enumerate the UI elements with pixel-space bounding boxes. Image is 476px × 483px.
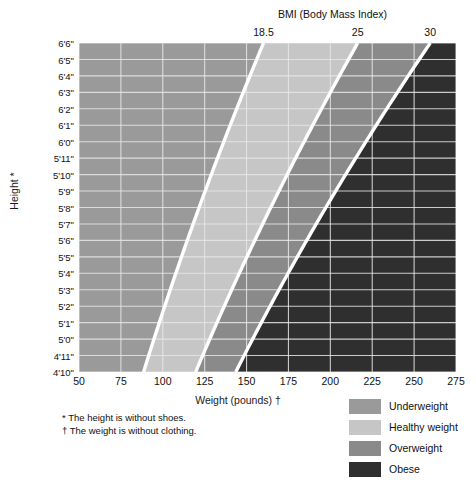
legend-swatch-icon: [349, 462, 381, 477]
legend-item-label: Healthy weight: [389, 421, 458, 433]
y-tick-label: 5'10": [4, 169, 74, 180]
legend-item-label: Obese: [389, 463, 420, 475]
y-tick-label: 6'5": [4, 54, 74, 65]
legend-swatch-icon: [349, 399, 381, 414]
y-tick-label: 5'0": [4, 334, 74, 345]
plot-area: [79, 43, 456, 372]
x-tick-label: 100: [154, 375, 172, 387]
bmi-axis-title: BMI (Body Mass Index): [278, 8, 387, 20]
y-tick-label: 6'3": [4, 87, 74, 98]
bmi-chart: BMI (Body Mass Index) 18.52530 Height * …: [0, 0, 476, 483]
x-tick-label: 125: [196, 375, 214, 387]
bmi-tick-25: 25: [352, 26, 364, 38]
legend-item: Underweight: [349, 396, 473, 416]
bmi-tick-30: 30: [424, 26, 436, 38]
x-tick-label: 225: [363, 375, 381, 387]
legend-swatch-icon: [349, 441, 381, 456]
legend-item-label: Underweight: [389, 400, 448, 412]
y-tick-label: 6'1": [4, 120, 74, 131]
footnotes: * The height is without shoes.† The weig…: [62, 411, 196, 437]
x-tick-label: 275: [447, 375, 465, 387]
y-tick-label: 5'4": [4, 268, 74, 279]
x-axis-tick-labels: 5075100125150175200225250275: [0, 375, 476, 391]
legend-swatch-icon: [349, 420, 381, 435]
y-tick-label: 5'6": [4, 235, 74, 246]
legend-item: Obese: [349, 459, 473, 479]
y-tick-label: 5'8": [4, 202, 74, 213]
y-tick-label: 6'0": [4, 136, 74, 147]
x-tick-label: 250: [405, 375, 423, 387]
y-tick-label: 5'2": [4, 301, 74, 312]
y-tick-label: 5'1": [4, 317, 74, 328]
y-tick-label: 4'11": [4, 350, 74, 361]
legend-item: Healthy weight: [349, 417, 473, 437]
x-tick-label: 200: [322, 375, 340, 387]
x-tick-label: 50: [73, 375, 85, 387]
y-tick-label: 5'11": [4, 153, 74, 164]
y-tick-label: 6'6": [4, 38, 74, 49]
legend: UnderweightHealthy weightOverweightObese: [349, 396, 473, 480]
y-tick-label: 6'2": [4, 103, 74, 114]
legend-item-label: Overweight: [389, 442, 442, 454]
x-tick-label: 150: [238, 375, 256, 387]
x-tick-label: 175: [280, 375, 298, 387]
y-tick-label: 5'9": [4, 186, 74, 197]
y-tick-label: 5'7": [4, 219, 74, 230]
x-tick-label: 75: [115, 375, 127, 387]
footnote: * The height is without shoes.: [62, 411, 196, 424]
y-tick-label: 6'4": [4, 70, 74, 81]
footnote: † The weight is without clothing.: [62, 424, 196, 437]
bmi-tick-18.5: 18.5: [253, 26, 273, 38]
y-tick-label: 5'3": [4, 284, 74, 295]
legend-item: Overweight: [349, 438, 473, 458]
y-tick-label: 5'5": [4, 251, 74, 262]
